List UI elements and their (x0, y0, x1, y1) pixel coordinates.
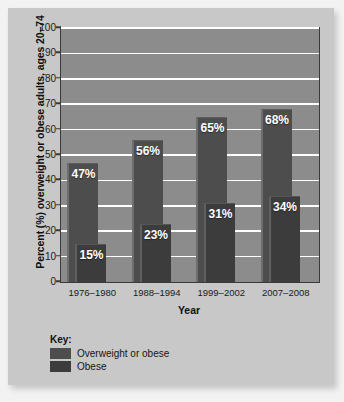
y-tick-label: 50 (30, 149, 56, 160)
y-tick-label: 60 (30, 123, 56, 134)
bar-group: 68%34% (255, 28, 320, 282)
bar-obese: 31% (204, 203, 235, 282)
legend-item: Overweight or obese (50, 348, 169, 359)
x-tick-label: 1976–1980 (60, 287, 125, 298)
x-tick-label: 1988–1994 (125, 287, 190, 298)
y-tick-label: 0 (30, 276, 56, 287)
legend-label: Overweight or obese (77, 348, 169, 359)
bar-value-label: 15% (77, 248, 106, 262)
bar-obese: 34% (269, 196, 300, 282)
legend-swatch (50, 361, 71, 372)
plot-area: 47%15%56%23%65%31%68%34% (60, 27, 320, 283)
y-tick-label: 70 (30, 98, 56, 109)
legend-label: Obese (77, 361, 106, 372)
y-tick-label: 80 (30, 72, 56, 83)
y-tick-label: 10 (30, 250, 56, 261)
y-tick-label: 20 (30, 225, 56, 236)
bar-group: 47%15% (61, 28, 126, 282)
x-tick-label: 2007–2008 (254, 287, 319, 298)
bar-value-label: 31% (206, 207, 235, 221)
y-tick-label: 40 (30, 174, 56, 185)
bar-obese: 23% (140, 224, 171, 282)
bar-value-label: 68% (263, 113, 292, 127)
bar-value-label: 23% (142, 228, 171, 242)
y-tick-label: 100 (30, 22, 56, 33)
bar-value-label: 34% (271, 200, 300, 214)
legend: Key: Overweight or obeseObese (50, 334, 169, 374)
y-tick-label: 30 (30, 199, 56, 210)
x-axis-title: Year (60, 304, 318, 316)
legend-items: Overweight or obeseObese (50, 348, 169, 372)
bar-group: 56%23% (126, 28, 191, 282)
bar-value-label: 65% (198, 121, 227, 135)
y-tick-label: 90 (30, 47, 56, 58)
chart-figure: Percent (%) overweight or obese adults, … (8, 8, 334, 385)
legend-title: Key: (50, 334, 169, 345)
bar-group: 65%31% (190, 28, 255, 282)
bar-value-label: 47% (69, 167, 98, 181)
legend-item: Obese (50, 361, 169, 372)
x-tick-label: 1999–2002 (189, 287, 254, 298)
bar-value-label: 56% (134, 144, 163, 158)
legend-swatch (50, 348, 71, 359)
bar-obese: 15% (75, 244, 106, 282)
